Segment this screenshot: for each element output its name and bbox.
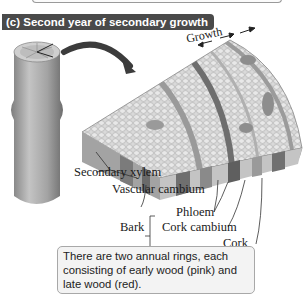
- label-cork-cambium: Cork cambium: [162, 220, 237, 234]
- label-bark: Bark: [120, 220, 144, 234]
- stem-cylinder: [11, 42, 63, 204]
- label-phloem: Phloem: [176, 205, 214, 219]
- label-vascular-cambium: Vascular cambium: [112, 182, 205, 196]
- caption-box: There are two annual rings, each consist…: [57, 246, 255, 294]
- label-secondary-xylem: Secondary xylem: [74, 165, 161, 179]
